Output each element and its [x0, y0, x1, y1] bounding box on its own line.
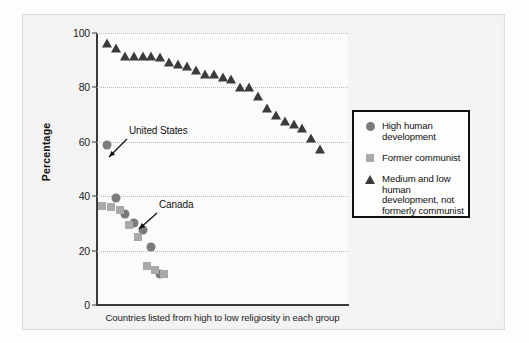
y-tick-label-100: 100: [73, 27, 90, 39]
x-axis-caption: Countries listed from high to low religi…: [97, 312, 348, 323]
circle-marker-icon-shape: [366, 122, 375, 131]
legend-item-label: Former communist: [382, 153, 460, 164]
square-marker-icon: [363, 154, 377, 162]
triangle-marker-icon-shape: [365, 175, 375, 184]
y-tick-label-40: 40: [79, 190, 90, 202]
y-tick-label-0: 0: [84, 299, 90, 311]
legend-item-label: Medium and low human development, not fo…: [382, 174, 467, 216]
legend-box: High human developmentFormer communistMe…: [352, 110, 470, 218]
y-axis-title: Percentage: [40, 123, 52, 182]
legend-item-label: High human development: [382, 121, 467, 142]
triangle-marker-icon: [363, 175, 377, 184]
figure-container: Percentage 020406080100 United StatesCan…: [0, 0, 529, 343]
legend-item-2[interactable]: Former communist: [363, 153, 467, 164]
y-tick-label-80: 80: [79, 81, 90, 93]
annotation-arrow-canada: [97, 33, 348, 305]
plot-area: 020406080100 United StatesCanada: [97, 33, 348, 305]
y-tick-label-60: 60: [79, 136, 90, 148]
legend-item-3[interactable]: Medium and low human development, not fo…: [363, 174, 467, 216]
square-marker-icon-shape: [366, 154, 374, 162]
circle-marker-icon: [363, 122, 377, 131]
legend-item-1[interactable]: High human development: [363, 121, 467, 142]
y-tick-label-20: 20: [79, 245, 90, 257]
